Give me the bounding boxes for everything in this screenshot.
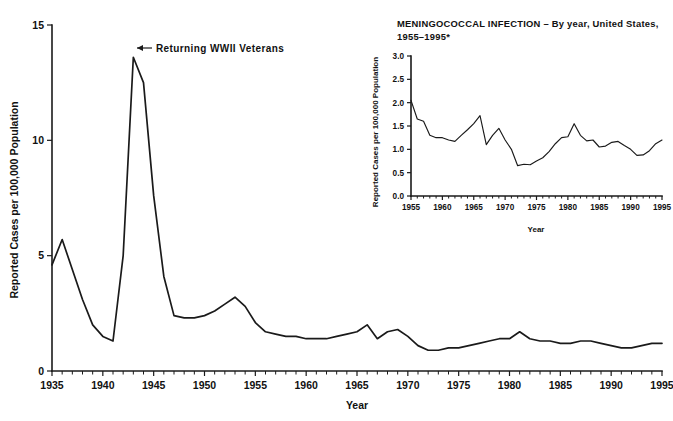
y-tick-label: 2.0 — [393, 99, 405, 108]
x-tick-label: 1945 — [142, 379, 166, 391]
x-tick-label: 1965 — [345, 379, 369, 391]
x-tick-label: 1960 — [433, 203, 452, 212]
main-y-tick-labels: 051015 — [32, 19, 44, 377]
main-x-tick-labels: 1935194019451950195519601965197019751980… — [40, 379, 673, 391]
inset-title-line2: 1955–1995* — [397, 31, 450, 42]
y-tick-label: 0.0 — [393, 192, 405, 201]
x-tick-label: 1975 — [447, 379, 471, 391]
main-x-axis-title: Year — [346, 399, 368, 411]
x-tick-label: 1980 — [559, 203, 578, 212]
main-y-axis-title: Reported Cases per 100,000 Population — [8, 101, 20, 298]
x-tick-label: 1990 — [622, 203, 641, 212]
wwii-annotation: Returning WWII Veterans — [137, 43, 284, 54]
x-tick-label: 1990 — [599, 379, 623, 391]
y-tick-label: 2.5 — [393, 75, 405, 84]
x-tick-label: 1965 — [465, 203, 484, 212]
x-tick-label: 1970 — [396, 379, 420, 391]
x-tick-label: 1950 — [193, 379, 217, 391]
inset-x-tick-labels: 195519601965197019751980198519901995 — [402, 203, 672, 212]
y-tick-label: 0 — [38, 365, 44, 377]
x-tick-label: 1955 — [244, 379, 268, 391]
inset-x-axis-title: Year — [528, 225, 545, 234]
inset-title-line1: MENINGOCOCCAL INFECTION – By year, Unite… — [397, 18, 659, 29]
annotation-arrow-icon — [137, 45, 152, 51]
y-tick-label: 3.0 — [393, 52, 405, 61]
chart-canvas: Reported Cases per 100,000 Population 05… — [0, 0, 673, 421]
y-tick-label: 15 — [32, 19, 44, 31]
x-tick-label: 1995 — [650, 379, 673, 391]
x-tick-label: 1955 — [402, 203, 421, 212]
y-tick-label: 0.5 — [393, 169, 405, 178]
x-tick-label: 1975 — [527, 203, 546, 212]
x-tick-label: 1995 — [653, 203, 672, 212]
x-tick-label: 1960 — [294, 379, 318, 391]
y-tick-label: 5 — [38, 249, 44, 261]
inset-chart: MENINGOCOCCAL INFECTION – By year, Unite… — [362, 12, 672, 238]
y-tick-label: 1.0 — [393, 145, 405, 154]
x-tick-label: 1935 — [40, 379, 64, 391]
x-tick-label: 1985 — [590, 203, 609, 212]
figure-container: Reported Cases per 100,000 Population 05… — [0, 0, 673, 421]
x-tick-label: 1940 — [91, 379, 115, 391]
x-tick-label: 1985 — [549, 379, 573, 391]
y-tick-label: 1.5 — [393, 122, 405, 131]
x-tick-label: 1970 — [496, 203, 515, 212]
x-tick-label: 1980 — [498, 379, 522, 391]
annotation-label: Returning WWII Veterans — [156, 43, 284, 54]
inset-y-axis-title: Reported Cases per 100,000 Population — [371, 57, 380, 207]
y-tick-label: 10 — [32, 134, 44, 146]
